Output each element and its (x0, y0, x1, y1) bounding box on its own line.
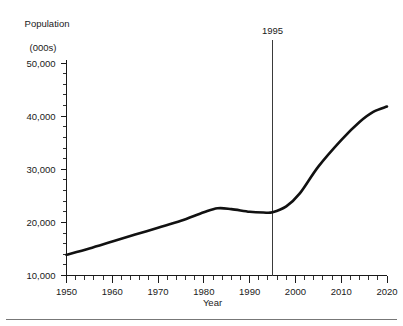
x-axis-title-text: Year (203, 297, 222, 308)
y-tick-label: 30,000 (26, 164, 55, 175)
annotation-label: 1995 (262, 25, 283, 36)
x-tick-label: 2010 (331, 286, 352, 297)
x-tick-label: 1970 (148, 286, 169, 297)
population-series-line (67, 107, 388, 255)
y-tick-label: 20,000 (26, 217, 55, 228)
x-tick-label: 1990 (239, 286, 260, 297)
y-axis-ticks (61, 63, 67, 276)
x-tick-label: 1950 (56, 286, 77, 297)
x-tick-label: 2000 (285, 286, 306, 297)
y-tick-label: 40,000 (26, 111, 55, 122)
annotation-1995: 1995 (262, 25, 283, 276)
x-axis-tick-labels: 19501960197019801990200020102020 (56, 286, 398, 297)
y-axis-title-line2: (000s) (14, 42, 72, 54)
y-axis-title: Population (000s) (14, 6, 72, 78)
y-axis-tick-labels: 10,00020,00030,00040,00050,000 (26, 58, 55, 282)
x-axis-ticks (67, 276, 388, 283)
x-axis: 19501960197019801990200020102020 (56, 276, 398, 297)
x-tick-label: 1980 (193, 286, 214, 297)
population-line-chart-figure: Population (000s) 10,00020,00030,00040,0… (0, 0, 403, 326)
x-tick-label: 1960 (102, 286, 123, 297)
x-axis-title: Year (0, 297, 403, 308)
y-axis: 10,00020,00030,00040,00050,000 (26, 58, 66, 282)
y-axis-title-line1: Population (25, 18, 70, 29)
x-tick-label: 2020 (376, 286, 397, 297)
y-tick-label: 10,000 (26, 270, 55, 281)
